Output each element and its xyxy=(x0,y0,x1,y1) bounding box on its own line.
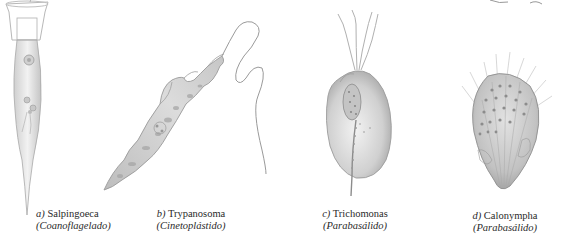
genus-name: Calonympha xyxy=(484,210,538,221)
caption-d: d) Calonympha (Parabasálido) xyxy=(470,210,540,234)
calonymphid-illustration xyxy=(0,0,563,238)
group-name: (Parabasálido) xyxy=(470,222,540,234)
panel-letter: d) xyxy=(472,210,481,221)
